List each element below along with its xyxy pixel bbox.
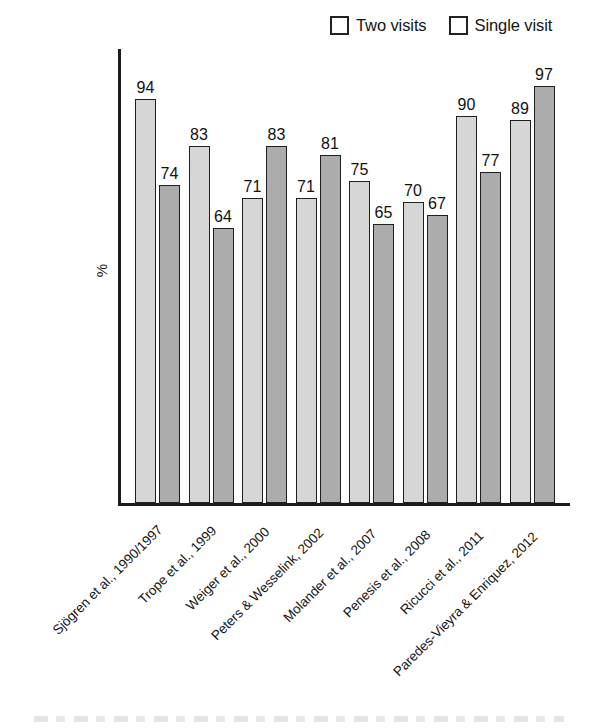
bar-value-label: 71: [289, 178, 324, 196]
bar-value-label: 71: [235, 178, 270, 196]
bar-value-label: 65: [366, 204, 401, 222]
bar-single-visit: [213, 228, 234, 503]
bar-value-label: 67: [420, 195, 455, 213]
x-axis-labels: Sjögren et al., 1990/1997Trope et al., 1…: [0, 506, 597, 728]
bar-value-label: 89: [503, 100, 538, 118]
bar-value-label: 74: [152, 165, 187, 183]
bar-single-visit: [266, 146, 287, 503]
bar-two-visits: [135, 99, 156, 503]
bar-single-visit: [480, 172, 501, 503]
x-axis-label: Peters & Wesselink, 2002: [208, 525, 326, 643]
bar-value-label: 83: [259, 126, 294, 144]
cut-off-caption: [34, 716, 564, 722]
bar-two-visits: [242, 198, 263, 503]
bar-single-visit: [534, 86, 555, 503]
x-axis-label: Molander et al., 2007: [280, 526, 379, 625]
plot-area: % 94748364718371817565706790778997 Sjögr…: [0, 0, 597, 728]
bar-single-visit: [427, 215, 448, 503]
bar-value-label: 81: [313, 135, 348, 153]
bar-single-visit: [373, 224, 394, 504]
bar-value-label: 97: [527, 66, 562, 84]
bar-chart-figure: Two visits Single visit % 94748364718371…: [0, 0, 597, 728]
bar-two-visits: [456, 116, 477, 503]
bar-single-visit: [320, 155, 341, 503]
bar-value-label: 90: [449, 96, 484, 114]
x-axis-label: Sjögren et al., 1990/1997: [50, 522, 166, 638]
bar-two-visits: [296, 198, 317, 503]
bar-value-label: 83: [182, 126, 217, 144]
bar-value-label: 94: [128, 79, 163, 97]
bar-value-label: 77: [473, 152, 508, 170]
bar-value-label: 64: [206, 208, 241, 226]
bar-two-visits: [403, 202, 424, 503]
bar-single-visit: [159, 185, 180, 503]
bar-value-label: 75: [342, 161, 377, 179]
bars-layer: 94748364718371817565706790778997: [0, 0, 597, 506]
bar-two-visits: [349, 181, 370, 504]
bar-two-visits: [510, 120, 531, 503]
bar-two-visits: [189, 146, 210, 503]
